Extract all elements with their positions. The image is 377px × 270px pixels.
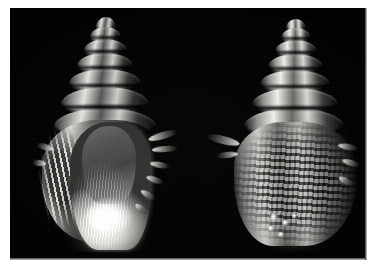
shell-left-suture-4 (62, 84, 152, 87)
shell-left-suture-5 (55, 105, 159, 109)
shell-right-suture-3 (262, 67, 334, 70)
shell-left-suture-3 (71, 66, 145, 69)
shell-right-knob-2 (282, 220, 289, 227)
shell-left-spire (60, 16, 152, 134)
shell-right-knob-3 (268, 226, 274, 232)
shell-right-suture-4 (254, 85, 342, 88)
shell-specimen-dorsal (210, 18, 367, 254)
shell-right-knob-5 (292, 214, 297, 219)
shell-right-knob-4 (278, 232, 284, 238)
photograph-plate (10, 8, 367, 260)
shell-left-aperture-highlight (86, 198, 132, 234)
shell-right-suture-5 (246, 106, 348, 110)
shell-right-nodular-texture (232, 118, 358, 250)
shell-left-suture-1 (86, 36, 130, 39)
shell-right-knob-1 (270, 214, 278, 222)
shell-right-suture-1 (277, 37, 319, 40)
shell-left-suture-2 (79, 50, 137, 53)
figure-root: Two views of a single spiny gastropod (m… (0, 0, 377, 270)
shell-right-suture-2 (270, 51, 326, 54)
shell-specimen-ventral (30, 14, 185, 254)
